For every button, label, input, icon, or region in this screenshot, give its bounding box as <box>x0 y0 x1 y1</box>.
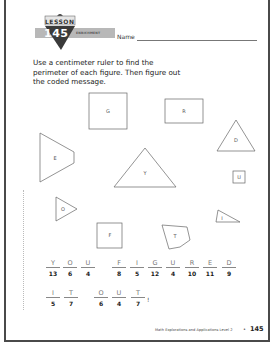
code-slot: G12 <box>148 260 162 277</box>
code-slot: I5 <box>46 290 60 307</box>
code-slot: T7 <box>131 290 145 307</box>
figure-i: I <box>216 210 240 222</box>
figure-r: R <box>165 99 203 123</box>
figure-g: G <box>89 93 127 129</box>
figure-d: D <box>217 120 255 151</box>
figure-o: O <box>56 197 77 221</box>
code-slot: U4 <box>112 290 126 307</box>
svg-text:D: D <box>234 137 238 143</box>
code-slot: O6 <box>94 290 108 307</box>
svg-text:U: U <box>237 174 241 180</box>
code-slot: D9 <box>222 260 236 277</box>
code-slot: T7 <box>64 290 78 307</box>
svg-text:E: E <box>53 155 56 161</box>
code-slot: Y13 <box>46 260 60 277</box>
exclamation-mark: ! <box>147 296 149 303</box>
figure-f: F <box>97 223 122 248</box>
svg-text:I: I <box>221 215 222 221</box>
code-slot: U4 <box>81 260 95 277</box>
svg-text:R: R <box>182 108 186 114</box>
figure-e: E <box>40 133 74 182</box>
figure-u: U <box>233 171 245 183</box>
figure-t: T <box>162 225 190 249</box>
svg-text:O: O <box>61 206 65 212</box>
code-slot: O6 <box>63 260 77 277</box>
code-slot: U4 <box>166 260 180 277</box>
page-number: 145 <box>250 325 264 333</box>
code-slot: E11 <box>203 260 217 277</box>
footer-separator: • <box>243 326 246 332</box>
svg-text:T: T <box>172 233 177 239</box>
svg-text:G: G <box>106 108 110 114</box>
figures-area: G R D E Y U O I F T <box>0 0 273 364</box>
figure-y: Y <box>114 148 176 187</box>
svg-text:Y: Y <box>142 170 147 176</box>
code-slot: I5 <box>130 260 144 277</box>
code-slot: R10 <box>185 260 199 277</box>
footer-book-title: Math Explorations and Applications Level… <box>155 328 233 332</box>
svg-text:F: F <box>109 232 112 238</box>
code-slot: F8 <box>112 260 126 277</box>
